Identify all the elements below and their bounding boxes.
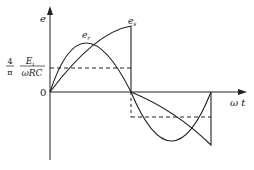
curve-label-e-s: es [128, 16, 136, 27]
origin-label: 0 [40, 87, 46, 98]
svg-text:ωRC: ωRC [21, 68, 42, 78]
svg-text:4: 4 [7, 57, 12, 66]
svg-text:Ei: Ei [25, 56, 35, 67]
curve-label-e-r: er [82, 30, 91, 41]
svg-text:π: π [7, 68, 12, 77]
x-axis-arrow-icon [238, 89, 247, 95]
y-axis-label: e [40, 13, 46, 24]
curve-e-s [50, 26, 211, 145]
waveform-diagram: e ω t 0 er es 4 π Ei ωRC [0, 0, 254, 170]
level-label: 4 π Ei ωRC [6, 56, 45, 78]
x-axis-label: ω t [230, 97, 246, 108]
y-axis-arrow-icon [47, 6, 53, 15]
